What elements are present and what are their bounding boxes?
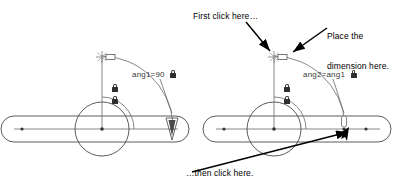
dimension-label-ang1-text: ang1=90 [132,70,165,79]
lock-icon [170,70,176,78]
callout-place-dimension-line2: dimension here. [327,61,389,71]
right-pivot-dot-outer [364,127,367,130]
callout-then-click: …then click here. [186,168,253,178]
right-pivot-dot-center [272,127,276,131]
left-linkage-assembly [1,51,189,156]
left-inner-constraint-arc [102,97,134,129]
dimension-label-ang1: ang1=90 [132,70,176,79]
callout-place-dimension-line1: Place the [327,31,389,41]
callout-first-click: First click here… [193,11,258,21]
lock-icon [112,96,118,104]
left-pivot-dot-center [100,127,104,131]
right-dimension-handle-box [278,55,287,60]
lock-icon [284,96,290,104]
arrow-place-dimension [293,28,327,52]
arrow-first-click [246,22,270,51]
left-dimension-leader-line [160,79,172,113]
left-constraint-lock-icon-2 [109,89,118,107]
callout-place-dimension: Place the dimension here. [327,11,389,91]
right-constraint-lock-icon-2 [281,89,290,107]
left-crosshair-icon [96,51,115,63]
right-link-endpoint-handle [342,116,347,127]
right-inner-constraint-arc [274,97,306,129]
diagram-screenshot: ang1=90 ang2=ang1 First click here… Plac… [0,0,410,189]
right-crosshair-icon [268,51,287,63]
left-dimension-handle-box [106,55,115,60]
right-pivot-dot-start [222,127,225,130]
arrow-then-click [192,132,348,172]
left-pivot-dot-start [20,127,23,130]
